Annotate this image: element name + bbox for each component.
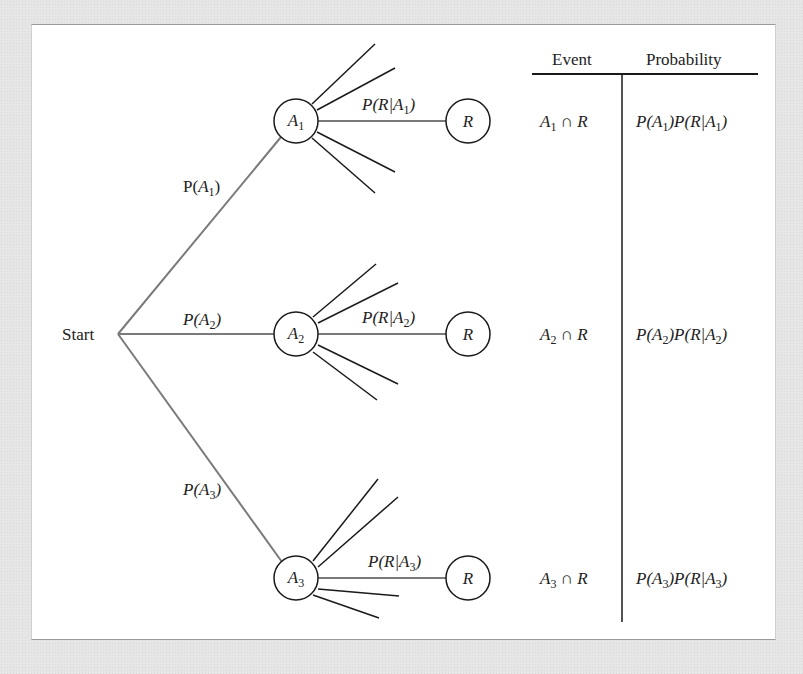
spokes-a1 [312,44,395,193]
table-row-3-probability: P(A3)P(R|A3) [636,570,727,587]
table-header-probability: Probability [646,51,722,68]
branch-start-a3 [118,334,282,562]
cond-label-r-given-a2: P(R|A2) [362,309,415,326]
node-a2-label: A2 [276,325,316,342]
spokes-a3 [313,479,399,618]
table-row-1-event: A1 ∩ R [540,113,588,130]
node-r1-label: R [448,113,488,130]
table-row-2-event: A2 ∩ R [540,326,588,343]
cond-label-r-given-a3: P(R|A3) [368,553,421,570]
node-a1-label: A1 [276,112,316,129]
table-row-2-probability: P(A2)P(R|A2) [636,326,727,343]
branch-label-p-a3: P(A3) [183,481,221,498]
start-label: Start [62,326,94,343]
table-row-3-event: A3 ∩ R [540,570,588,587]
branch-label-p-a1: P(A1) [183,178,220,195]
branch-label-p-a2: P(A2) [183,311,221,328]
table-header-event: Event [552,51,592,68]
node-r2-label: R [448,326,488,343]
node-a3-label: A3 [276,569,316,586]
table-row-1-probability: P(A1)P(R|A1) [636,113,727,130]
node-r3-label: R [448,570,488,587]
cond-label-r-given-a1: P(R|A1) [362,96,415,113]
branch-start-a1 [118,137,281,334]
spokes-a2 [313,264,398,400]
